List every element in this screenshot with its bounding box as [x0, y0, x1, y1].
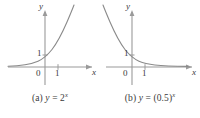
exponential-graphs-figure: y x 1 0 1 (a) y = 2x: [0, 0, 200, 118]
caption-b: (b) y = (0.5)x: [100, 93, 200, 103]
origin-label-a: 0: [36, 68, 41, 78]
y-axis-a: [43, 10, 48, 85]
x-tick-label-a: 1: [55, 68, 60, 78]
caption-a-exp: x: [65, 91, 68, 98]
caption-b-prefix: (b): [125, 93, 136, 103]
plot-b: y x 1 0 1: [100, 0, 200, 92]
origin-label-b: 0: [123, 68, 128, 78]
caption-a-prefix: (a): [32, 93, 43, 103]
caption-b-exp: x: [172, 91, 175, 98]
y-axis-b: [130, 10, 135, 85]
x-axis-label-a: x: [92, 67, 96, 77]
y-axis-label-b: y: [126, 1, 130, 11]
caption-b-eq: = (0.5): [146, 93, 173, 103]
x-axis-b: [106, 65, 192, 70]
y-axis-label-a: y: [39, 1, 43, 11]
y-tick-label-a: 1: [37, 48, 42, 58]
plot-a: y x 1 0 1: [0, 0, 100, 92]
y-tick-label-b: 1: [124, 48, 129, 58]
panel-a: y x 1 0 1 (a) y = 2x: [0, 0, 100, 118]
caption-b-y: y: [139, 93, 143, 103]
curve-b: [103, 5, 188, 66]
caption-a: (a) y = 2x: [0, 93, 100, 103]
x-axis-label-b: x: [192, 67, 196, 77]
caption-a-y: y: [45, 93, 49, 103]
x-tick-label-b: 1: [142, 68, 147, 78]
panel-b: y x 1 0 1 (b) y = (0.5)x: [100, 0, 200, 118]
caption-a-eq: = 2: [52, 93, 65, 103]
